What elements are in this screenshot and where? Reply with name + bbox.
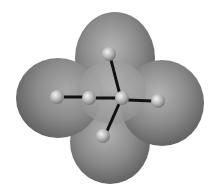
atom-right (151, 94, 165, 108)
atom-bottom (96, 129, 110, 143)
atom-center (115, 91, 129, 105)
atom-left-far (50, 90, 64, 104)
bond-right (128, 100, 152, 101)
atom-left-near (82, 91, 96, 105)
molecule-model-svg (0, 0, 214, 193)
atom-top (102, 47, 116, 61)
molecule-figure (0, 0, 214, 193)
